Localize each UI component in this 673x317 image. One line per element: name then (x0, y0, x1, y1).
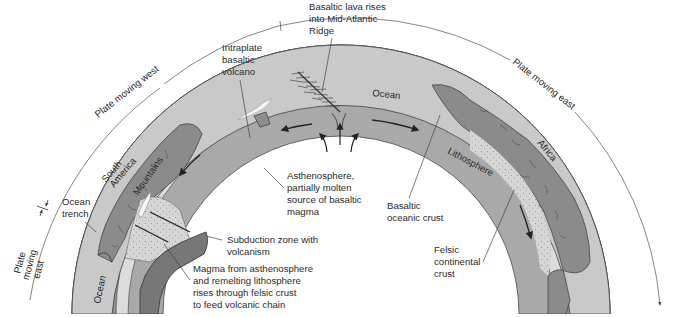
ridge-tick-mark (280, 21, 281, 31)
svg-text:volcanism: volcanism (227, 246, 270, 257)
svg-text:into Mid-Atlantic: into Mid-Atlantic (309, 13, 377, 24)
svg-text:oceanic crust: oceanic crust (387, 212, 444, 223)
svg-text:basaltic: basaltic (222, 54, 255, 65)
plate-tectonics-diagram: Plate moving west Plate moving east Plat… (0, 0, 673, 317)
svg-text:and remelting lithosphere: and remelting lithosphere (193, 275, 301, 286)
svg-text:Asthenosphere,: Asthenosphere, (287, 170, 354, 181)
label-plate-moving-east-left: Plate moving east (10, 246, 48, 284)
boundary-tick-mark (37, 206, 48, 210)
boundary-arrow-down-icon (40, 210, 42, 216)
svg-text:partially molten: partially molten (287, 182, 352, 193)
svg-text:Subduction zone with: Subduction zone with (227, 234, 318, 245)
svg-text:volcano: volcano (222, 66, 255, 77)
callout-subduction-zone: Subduction zone with volcanism (206, 234, 318, 257)
callout-asthenosphere: Asthenosphere, partially molten source o… (264, 168, 362, 217)
svg-text:rises through felsic crust: rises through felsic crust (193, 287, 297, 298)
svg-text:Magma from asthenosphere: Magma from asthenosphere (193, 263, 313, 274)
boundary-arrow-up-icon (46, 200, 48, 206)
label-plate-moving-east: Plate moving east (511, 56, 578, 112)
svg-text:magma: magma (287, 206, 320, 217)
svg-text:trench: trench (62, 208, 89, 219)
label-plate-moving-west: Plate moving west (92, 63, 160, 120)
svg-text:Ocean: Ocean (62, 196, 90, 207)
svg-text:Felsic: Felsic (434, 244, 459, 255)
svg-text:Basaltic lava rises: Basaltic lava rises (309, 1, 386, 12)
svg-text:source of basaltic: source of basaltic (287, 194, 362, 205)
svg-text:crust: crust (434, 268, 455, 279)
svg-text:continental: continental (434, 256, 480, 267)
svg-text:Basaltic: Basaltic (387, 200, 421, 211)
svg-text:Intraplate: Intraplate (222, 42, 262, 53)
svg-text:Ridge: Ridge (309, 25, 334, 36)
svg-text:to feed volcanic chain: to feed volcanic chain (193, 299, 285, 310)
